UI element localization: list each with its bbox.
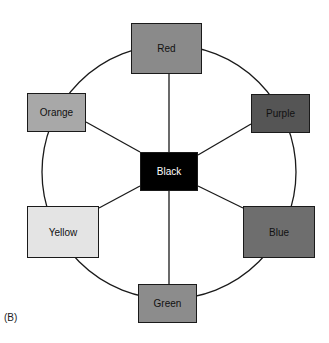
node-purple: Purple: [251, 94, 310, 133]
figure-label: (B): [4, 312, 17, 323]
node-label: Yellow: [49, 227, 78, 238]
node-label: Black: [157, 166, 181, 177]
node-label: Green: [154, 298, 182, 309]
node-orange: Orange: [27, 93, 86, 132]
node-label: Orange: [40, 107, 73, 118]
node-yellow: Yellow: [27, 206, 99, 258]
node-green: Green: [138, 284, 197, 323]
node-black-center: Black: [140, 152, 198, 191]
node-label: Blue: [269, 227, 289, 238]
node-red: Red: [131, 23, 202, 74]
node-blue: Blue: [243, 206, 315, 258]
node-label: Purple: [266, 108, 295, 119]
node-label: Red: [157, 43, 175, 54]
